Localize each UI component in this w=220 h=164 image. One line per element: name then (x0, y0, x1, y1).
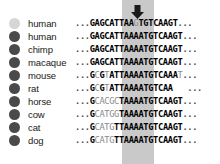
species-label: human (28, 30, 75, 43)
sequence-segment: ... (75, 18, 90, 28)
species-label: cow (28, 108, 75, 121)
alignment-rows: human...GAGCATTAAGTGTCAAGT...human...GAG… (0, 17, 220, 147)
species-dot-cell (0, 96, 28, 107)
species-label: mouse (28, 69, 75, 82)
sequence-segment: ... (75, 31, 90, 41)
dna-sequence: ...GAGCATTAAAATGTCAAGT... (75, 43, 220, 56)
sequence-segment: ... (182, 96, 197, 106)
species-label: macaque (28, 56, 75, 69)
dna-sequence: ...GCACGCTAAAATGTCAAGT... (75, 95, 220, 108)
alignment-row: macaque...GAGCATTAAAATGTCAAGT... (0, 56, 220, 69)
sequence-segment: CATG (95, 122, 115, 132)
species-label: chimp (28, 43, 75, 56)
species-dot-icon (9, 122, 20, 133)
sequence-alignment-figure: human...GAGCATTAAGTGTCAAGT...human...GAG… (0, 0, 220, 164)
alignment-row: human...GAGCATTAAAATGTCAAGT... (0, 30, 220, 43)
alignment-row: cat...GCATGTTAAAATGTCAAGT... (0, 121, 220, 134)
species-dot-cell (0, 109, 28, 120)
sequence-segment: GAGCATTAAAATGTCAAGT (90, 44, 183, 54)
alignment-row: cow...GCATGGTAAAATGTCAAGT... (0, 108, 220, 121)
species-dot-icon (9, 135, 20, 146)
species-label: cat (28, 121, 75, 134)
sequence-segment: CATGG (95, 109, 119, 119)
species-dot-cell (0, 44, 28, 55)
sequence-segment: CACGC (95, 96, 119, 106)
sequence-segment: ... (182, 57, 197, 67)
sequence-segment: ... (75, 70, 90, 80)
sequence-segment: ... (75, 135, 90, 145)
dna-sequence: ...GAGCATTAAAATGTCAAGT... (75, 30, 220, 43)
species-dot-icon (9, 109, 20, 120)
species-label: rat (28, 82, 75, 95)
sequence-segment: ... (75, 44, 90, 54)
dna-sequence: ...GCGTATTAAAATGTCAAAT... (75, 69, 220, 82)
dna-sequence: ...GCATGTTAAAATGTCAAGT... (75, 121, 220, 134)
sequence-segment: GAGCATTAA (90, 18, 134, 28)
sequence-segment: GAGCATTAAAATGTCAAGT (90, 31, 183, 41)
dna-sequence: ...GCATGGTAAAATGTCAAGT... (75, 108, 220, 121)
dna-sequence: ...GCGTATTAAAATGTCAA ... (75, 82, 220, 95)
sequence-segment: ... (182, 31, 197, 41)
species-label: horse (28, 95, 75, 108)
sequence-segment: TAAAATGTCAAGT (119, 96, 182, 106)
sequence-segment: ATTAAAATGTCAAA (109, 70, 177, 80)
alignment-row: rat...GCGTATTAAAATGTCAA ... (0, 82, 220, 95)
species-dot-cell (0, 83, 28, 94)
species-label: human (28, 17, 75, 30)
sequence-segment: TAAAATGTCAAGT (119, 109, 182, 119)
species-dot-cell (0, 135, 28, 146)
alignment-row: horse...GCACGCTAAAATGTCAAGT... (0, 95, 220, 108)
species-dot-icon (9, 70, 20, 81)
species-dot-cell (0, 31, 28, 42)
species-dot-icon (9, 44, 20, 55)
sequence-segment: ... (75, 83, 90, 93)
sequence-segment: ... (182, 70, 197, 80)
sequence-segment: CATG (95, 135, 115, 145)
sequence-segment: TGTCAAGT (138, 18, 177, 28)
species-dot-icon (9, 96, 20, 107)
species-dot-cell (0, 122, 28, 133)
species-label: dog (28, 134, 75, 147)
species-dot-cell (0, 70, 28, 81)
species-dot-cell (0, 57, 28, 68)
sequence-segment: ... (75, 96, 90, 106)
down-arrow-icon (130, 5, 145, 19)
sequence-segment: ... (187, 83, 202, 93)
sequence-segment: ... (182, 109, 197, 119)
sequence-segment: TTAAAATGTCAAGT (114, 122, 182, 132)
sequence-segment: ATTAAAATGTCAA (109, 83, 172, 93)
sequence-segment: TTAAAATGTCAAGT (114, 135, 182, 145)
sequence-segment: ... (75, 109, 90, 119)
sequence-segment: GAGCATTAAAATGTCAAGT (90, 57, 183, 67)
alignment-row: dog...GCATGTTAAAATGTCAAGT... (0, 134, 220, 147)
sequence-segment: ... (182, 135, 197, 145)
dna-sequence: ...GAGCATTAAAATGTCAAGT... (75, 56, 220, 69)
alignment-row: chimp...GAGCATTAAAATGTCAAGT... (0, 43, 220, 56)
dna-sequence: ...GAGCATTAAGTGTCAAGT... (75, 17, 220, 30)
species-dot-cell (0, 18, 28, 29)
dna-sequence: ...GCATGTTAAAATGTCAAGT... (75, 134, 220, 147)
sequence-segment: ... (182, 122, 197, 132)
sequence-segment (173, 83, 188, 93)
sequence-segment: ... (178, 18, 193, 28)
sequence-segment: ... (182, 44, 197, 54)
species-dot-icon (9, 18, 20, 29)
alignment-row: mouse...GCGTATTAAAATGTCAAAT... (0, 69, 220, 82)
species-dot-icon (9, 31, 20, 42)
sequence-segment: ... (75, 122, 90, 132)
alignment-row: human...GAGCATTAAGTGTCAAGT... (0, 17, 220, 30)
sequence-segment: ... (75, 57, 90, 67)
species-dot-icon (9, 83, 20, 94)
species-dot-icon (9, 57, 20, 68)
